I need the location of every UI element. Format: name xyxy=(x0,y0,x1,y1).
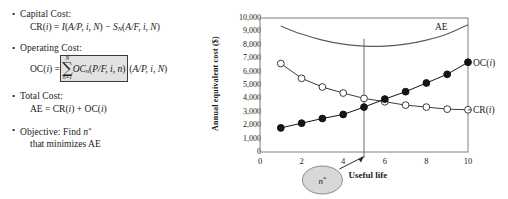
bullet-capital-cost-header: • Capital Cost: xyxy=(12,8,206,20)
x-tick-label: 4 xyxy=(341,156,346,166)
bullet-total-cost-label: Total Cost: xyxy=(20,90,63,102)
data-point xyxy=(319,84,326,91)
bullet-dot-icon: • xyxy=(12,124,20,136)
n-star-arrowhead xyxy=(359,156,365,163)
bullet-capital-cost: • Capital Cost: CR(i) = I(A/P, i, N) − S… xyxy=(12,8,206,35)
plot-svg: 0246810 OC(i)CR(i)AE n*Useful life xyxy=(205,0,508,199)
data-point xyxy=(465,59,472,66)
useful-life-label: Useful life xyxy=(348,170,387,180)
x-tick-label: 8 xyxy=(424,156,428,166)
bullet-capital-cost-formula: CR(i) = I(A/P, i, N) − SN(A/F, i, N) xyxy=(30,21,206,35)
data-point xyxy=(402,88,409,95)
sigma-icon: N ∑ n=1 xyxy=(62,56,73,81)
data-point xyxy=(319,115,326,122)
series-label-cr: CR(i) xyxy=(473,105,495,116)
bullet-dot-icon: • xyxy=(12,90,20,102)
oc-tail-factor: (A/P, i, N) xyxy=(128,64,167,74)
x-tick-label: 0 xyxy=(258,156,262,166)
bullet-objective-label: Objective: Find n* xyxy=(20,124,92,138)
bullet-operating-cost: • Operating Cost: OC(i) = N ∑ n=1 OCn(P/… xyxy=(12,42,206,82)
bullet-objective-second-line: that minimizes AE xyxy=(30,138,206,150)
x-tick-label: 10 xyxy=(464,156,473,166)
series-labels: OC(i)CR(i)AE xyxy=(435,22,495,117)
series-label-ae: AE xyxy=(435,22,448,32)
bullet-objective-header: • Objective: Find n* xyxy=(12,124,206,138)
bullet-total-cost: • Total Cost: AE = CR(i) + OC(i) xyxy=(12,90,206,115)
data-point xyxy=(444,106,451,113)
slide-root: • Capital Cost: CR(i) = I(A/P, i, N) − S… xyxy=(0,0,508,199)
data-point xyxy=(340,90,347,97)
summation-highlight-box: N ∑ n=1 OCn(P/F, i, n) xyxy=(60,55,128,82)
bullet-dot-icon: • xyxy=(12,8,20,20)
chart: Annual equivalent cost ($) 01,0002,0003,… xyxy=(205,0,508,199)
bullet-total-cost-header: • Total Cost: xyxy=(12,90,206,102)
data-point xyxy=(298,75,305,82)
data-point xyxy=(361,104,368,111)
series-line xyxy=(281,62,468,128)
data-point xyxy=(361,95,368,102)
data-point xyxy=(277,124,284,131)
series-oc xyxy=(277,59,471,131)
series-label-oc: OC(i) xyxy=(473,58,495,69)
bullet-operating-cost-header: • Operating Cost: xyxy=(12,42,206,54)
bullet-operating-cost-label: Operating Cost: xyxy=(20,42,82,54)
data-point xyxy=(402,102,409,109)
bullet-total-cost-formula: AE = CR(i) + OC(i) xyxy=(30,103,206,115)
series-cr xyxy=(277,60,471,113)
data-point xyxy=(444,71,451,78)
sigma-lower-limit: n=1 xyxy=(63,75,72,81)
x-axis-tick-labels: 0246810 xyxy=(258,156,472,166)
bullet-dot-icon: • xyxy=(12,42,20,54)
data-point xyxy=(298,120,305,127)
data-point xyxy=(423,80,430,87)
x-tick-label: 2 xyxy=(299,156,303,166)
bullet-panel: • Capital Cost: CR(i) = I(A/P, i, N) − S… xyxy=(0,0,210,199)
data-point xyxy=(423,104,430,111)
x-tick-label: 6 xyxy=(383,156,387,166)
bullet-capital-cost-label: Capital Cost: xyxy=(20,8,71,20)
sigma-summand: OCn(P/F, i, n) xyxy=(73,64,126,74)
data-point xyxy=(277,60,284,67)
bullet-objective: • Objective: Find n* that minimizes AE xyxy=(12,124,206,150)
bullet-operating-cost-formula: OC(i) = N ∑ n=1 OCn(P/F, i, n) (A/P, i, … xyxy=(30,55,206,82)
data-point xyxy=(381,96,388,103)
oc-lhs: OC(i) = xyxy=(30,64,60,74)
data-point xyxy=(340,111,347,118)
